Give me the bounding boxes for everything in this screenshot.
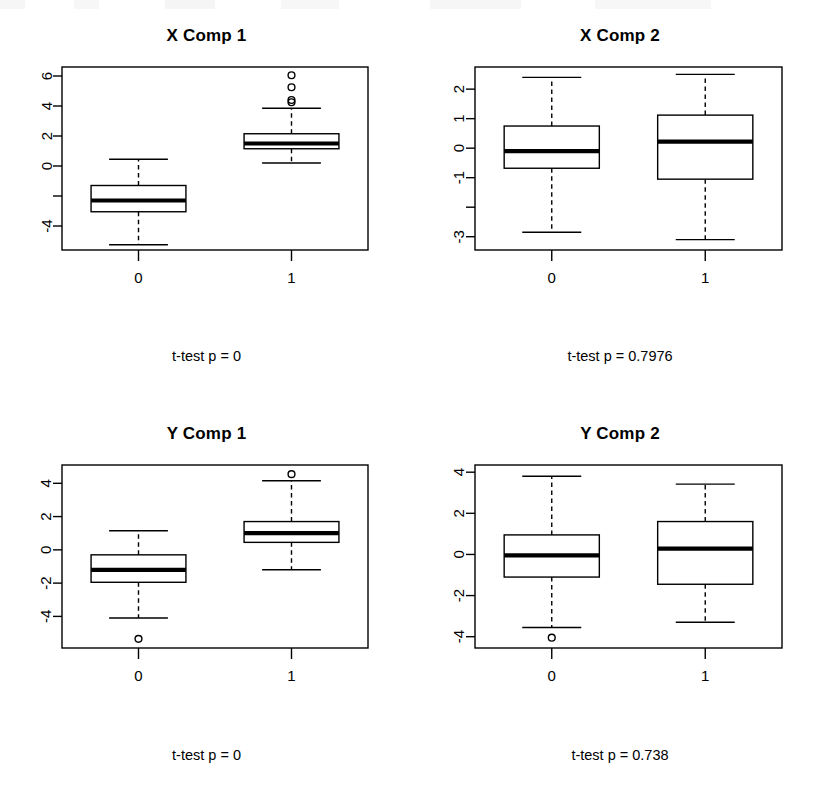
boxplot-svg: 6420-401 — [0, 55, 413, 305]
plot-area: 6420-401 — [0, 55, 413, 305]
box-iqr — [504, 126, 599, 168]
y-axis-tick-label: 1 — [451, 114, 468, 122]
outlier-point — [548, 634, 555, 641]
y-axis-tick-label: -2 — [451, 589, 468, 602]
box-iqr — [658, 115, 753, 179]
y-axis-tick-label: 4 — [38, 479, 55, 487]
boxplot-panel-grid: X Comp 1 6420-401 t-test p = 0 X Comp 2 … — [0, 0, 827, 797]
x-axis-tick-label: 1 — [287, 667, 295, 684]
y-axis-tick-label: 2 — [451, 85, 468, 93]
panel-title: X Comp 2 — [413, 26, 827, 46]
y-axis-tick-label: -4 — [38, 219, 55, 232]
x-axis-tick-label: 0 — [134, 269, 142, 286]
y-axis-tick-label: -2 — [38, 576, 55, 589]
y-axis-tick-label: -4 — [451, 630, 468, 643]
plot-frame — [62, 67, 368, 250]
panel-x-comp-1: X Comp 1 6420-401 t-test p = 0 — [0, 0, 413, 398]
panel-caption: t-test p = 0 — [0, 348, 413, 364]
box-iqr — [658, 522, 753, 585]
outlier-point — [288, 72, 295, 79]
panel-title: Y Comp 1 — [0, 424, 413, 444]
outlier-point — [288, 471, 295, 478]
plot-area: 420-2-401 — [0, 453, 413, 703]
panel-x-comp-2: X Comp 2 210-1-301 t-test p = 0.7976 — [413, 0, 827, 398]
y-axis-tick-label: 0 — [38, 162, 55, 170]
panel-caption: t-test p = 0.738 — [413, 747, 827, 763]
panel-title: X Comp 1 — [0, 26, 413, 46]
y-axis-tick-label: 2 — [38, 132, 55, 140]
panel-title: Y Comp 2 — [413, 424, 827, 444]
y-axis-tick-label: 0 — [451, 550, 468, 558]
x-axis-tick-label: 1 — [701, 269, 709, 286]
y-axis-tick-label: 4 — [38, 102, 55, 110]
panel-y-comp-2: Y Comp 2 420-2-401 t-test p = 0.738 — [413, 398, 827, 797]
x-axis-tick-label: 0 — [548, 667, 556, 684]
plot-area: 420-2-401 — [413, 453, 827, 703]
panel-caption: t-test p = 0.7976 — [413, 348, 827, 364]
y-axis-tick-label: -1 — [451, 171, 468, 184]
x-axis-tick-label: 0 — [548, 269, 556, 286]
y-axis-tick-label: 2 — [451, 509, 468, 517]
y-axis-tick-label: 6 — [38, 72, 55, 80]
y-axis-tick-label: -3 — [451, 230, 468, 243]
boxplot-svg: 420-2-401 — [413, 453, 827, 703]
box-iqr — [244, 134, 339, 149]
y-axis-tick-label: 2 — [38, 512, 55, 520]
y-axis-tick-label: 4 — [451, 468, 468, 476]
boxplot-svg: 210-1-301 — [413, 55, 827, 305]
panel-y-comp-1: Y Comp 1 420-2-401 t-test p = 0 — [0, 398, 413, 797]
x-axis-tick-label: 1 — [701, 667, 709, 684]
boxplot-svg: 420-2-401 — [0, 453, 413, 703]
x-axis-tick-label: 1 — [287, 269, 295, 286]
outlier-point — [135, 635, 142, 642]
outlier-point — [288, 84, 295, 91]
y-axis-tick-label: 0 — [451, 144, 468, 152]
y-axis-tick-label: -4 — [38, 610, 55, 623]
panel-caption: t-test p = 0 — [0, 747, 413, 763]
y-axis-tick-label: 0 — [38, 546, 55, 554]
x-axis-tick-label: 0 — [134, 667, 142, 684]
plot-area: 210-1-301 — [413, 55, 827, 305]
